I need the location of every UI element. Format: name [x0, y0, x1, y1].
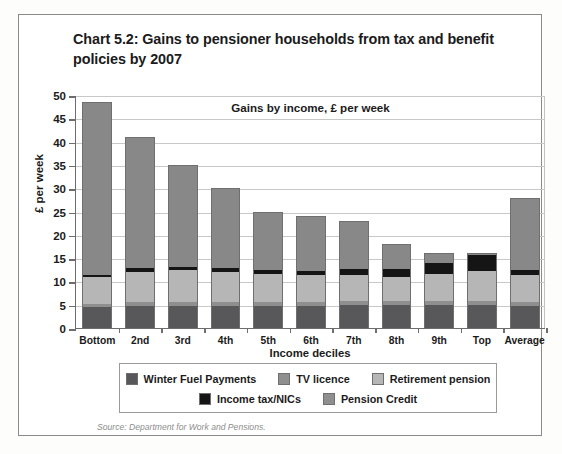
bar-segment	[253, 306, 283, 328]
bar-segment	[211, 272, 241, 302]
bar-segment	[211, 188, 241, 268]
legend-item[interactable]: TV licence	[278, 373, 349, 385]
y-axis-tick	[69, 143, 76, 145]
y-axis-tick	[69, 329, 76, 331]
bar: 8th	[382, 244, 412, 328]
bar: Bottom	[82, 102, 112, 328]
bar-segment	[168, 270, 198, 302]
x-axis-label: 7th	[346, 335, 361, 346]
x-axis-label: 9th	[431, 335, 446, 346]
gridline	[76, 96, 545, 97]
bar: 9th	[424, 253, 454, 328]
bar: Top	[467, 253, 497, 328]
x-axis-tick	[119, 328, 121, 333]
bar-segment	[424, 274, 454, 301]
legend-item[interactable]: Income tax/NICs	[199, 393, 301, 405]
bar: 2nd	[125, 137, 155, 328]
bar-segment	[168, 306, 198, 328]
x-axis-tick	[461, 328, 463, 333]
bar-segment	[339, 221, 369, 269]
legend-swatch	[199, 393, 211, 405]
bar-segment	[467, 305, 497, 328]
legend-item[interactable]: Pension Credit	[323, 393, 417, 405]
legend-swatch	[278, 373, 290, 385]
x-axis-label: 2nd	[131, 335, 149, 346]
bar: 7th	[339, 221, 369, 328]
legend-row-primary: Winter Fuel PaymentsTV licenceRetirement…	[120, 369, 496, 389]
y-axis-title: £ per week	[33, 154, 45, 213]
bar: 3rd	[168, 165, 198, 328]
bar-segment	[125, 272, 155, 302]
chart-legend: Winter Fuel PaymentsTV licenceRetirement…	[119, 363, 497, 413]
y-axis-tick	[69, 189, 76, 191]
bar: Average	[510, 198, 540, 328]
bar-segment	[125, 306, 155, 328]
legend-label: Winter Fuel Payments	[144, 373, 257, 385]
y-axis-label: 15	[53, 253, 66, 265]
x-axis-label: 6th	[303, 335, 318, 346]
x-axis-tick	[290, 328, 292, 333]
x-axis-title: Income deciles	[75, 347, 545, 359]
x-axis-label: Top	[473, 335, 491, 346]
source-note: Source: Department for Work and Pensions…	[97, 422, 266, 432]
x-axis-tick	[418, 328, 420, 333]
chart-frame: Chart 5.2: Gains to pensioner households…	[18, 14, 542, 436]
bar: 6th	[296, 216, 326, 328]
bar-segment	[296, 306, 326, 328]
x-axis-tick	[503, 328, 505, 333]
y-axis-label: 5	[60, 300, 66, 312]
x-axis-tick	[247, 328, 249, 333]
plot-inner-title: Gains by income, £ per week	[76, 101, 545, 114]
y-axis-label: 30	[53, 183, 66, 195]
x-axis-label: Bottom	[79, 335, 115, 346]
y-axis-label: 0	[60, 323, 66, 335]
bar-segment	[424, 305, 454, 328]
bar-segment	[424, 263, 454, 274]
bar-segment	[510, 306, 540, 328]
y-axis-label: 35	[53, 160, 66, 172]
legend-item[interactable]: Retirement pension	[372, 373, 491, 385]
y-axis-label: 25	[53, 207, 66, 219]
legend-swatch	[372, 373, 384, 385]
bar-segment	[168, 165, 198, 267]
bar-segment	[467, 255, 497, 271]
y-axis-label: 50	[53, 90, 66, 102]
bar-segment	[339, 305, 369, 328]
y-axis-label: 40	[53, 137, 66, 149]
bar-segment	[382, 305, 412, 328]
bar-segment	[467, 271, 497, 301]
bar-segment	[382, 269, 412, 276]
legend-label: Income tax/NICs	[217, 393, 301, 405]
y-axis-tick	[69, 96, 76, 98]
x-axis-tick	[375, 328, 377, 333]
plot-area: Gains by income, £ per week 051015202530…	[75, 96, 545, 329]
bar-segment	[211, 306, 241, 328]
bar-segment	[510, 198, 540, 271]
bar-segment	[82, 102, 112, 275]
legend-swatch	[323, 393, 335, 405]
x-axis-tick	[204, 328, 206, 333]
x-axis-tick	[161, 328, 163, 333]
legend-item[interactable]: Winter Fuel Payments	[126, 373, 257, 385]
y-axis-label: 20	[53, 230, 66, 242]
bar-segment	[82, 277, 112, 304]
bar-segment	[125, 137, 155, 268]
bar-segment	[296, 216, 326, 271]
legend-label: TV licence	[296, 373, 349, 385]
legend-label: Pension Credit	[341, 393, 417, 405]
x-axis-label: 4th	[218, 335, 233, 346]
y-axis-label: 10	[53, 276, 66, 288]
bar-segment	[510, 275, 540, 302]
x-axis-label: Average	[504, 335, 544, 346]
y-axis-tick	[69, 306, 76, 308]
bar-segment	[339, 275, 369, 301]
y-axis-tick	[69, 259, 76, 261]
bar-segment	[382, 244, 412, 269]
y-axis-label: 45	[53, 113, 66, 125]
bar: 5th	[253, 212, 283, 328]
x-axis-label: 5th	[261, 335, 276, 346]
legend-row-secondary: Income tax/NICsPension Credit	[120, 389, 496, 409]
chart-title: Chart 5.2: Gains to pensioner households…	[73, 29, 523, 70]
legend-label: Retirement pension	[390, 373, 491, 385]
x-axis-tick	[546, 328, 548, 333]
